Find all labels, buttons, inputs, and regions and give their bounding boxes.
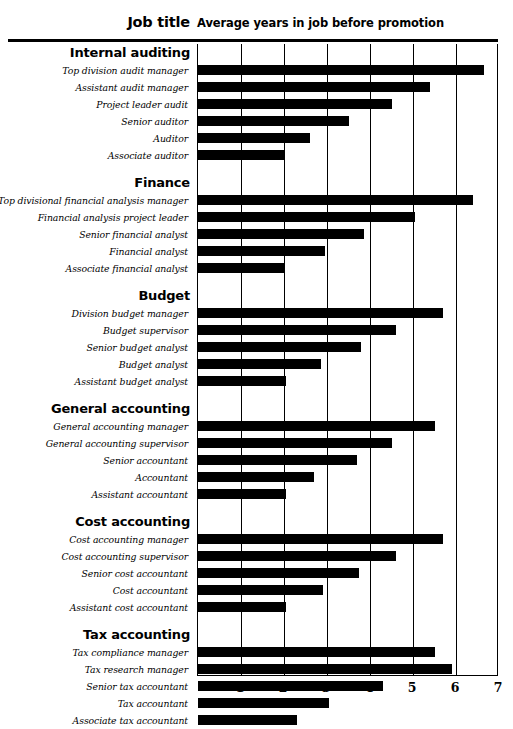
bar-row: General accounting manager xyxy=(0,418,513,435)
group-title-row: Cost accounting xyxy=(0,513,513,531)
bar-track xyxy=(198,192,498,209)
bar-row-label: Cost accounting supervisor xyxy=(62,551,188,562)
bar xyxy=(198,551,396,561)
bar-row-label: Senior tax accountant xyxy=(86,681,188,692)
bar xyxy=(198,116,349,126)
bar-row: Tax research manager xyxy=(0,661,513,678)
bar-row-label: Assistant cost accountant xyxy=(70,602,188,613)
bar xyxy=(198,376,286,386)
bar-row-label: General accounting supervisor xyxy=(46,438,188,449)
bar xyxy=(198,421,435,431)
bar-track xyxy=(198,62,498,79)
bar xyxy=(198,212,415,222)
bar-row-label: Cost accountant xyxy=(113,585,188,596)
chart-rows: Internal auditingTop division audit mana… xyxy=(0,44,513,729)
group-spacer xyxy=(0,390,513,400)
bar-row-label: Division budget manager xyxy=(72,308,188,319)
bar-row-label: Senior accountant xyxy=(103,455,188,466)
bar-row-label: Accountant xyxy=(135,472,188,483)
bar-row-label: Budget analyst xyxy=(119,359,188,370)
bar-track xyxy=(198,452,498,469)
bar-track xyxy=(198,96,498,113)
bar-row-label: Tax accountant xyxy=(118,698,188,709)
bar xyxy=(198,472,314,482)
axis-title-header: Average years in job before promotion xyxy=(197,16,497,30)
group-title-row: General accounting xyxy=(0,400,513,418)
chart-group: BudgetDivision budget managerBudget supe… xyxy=(0,287,513,400)
bar-row-label: Budget supervisor xyxy=(103,325,188,336)
bar xyxy=(198,664,452,674)
bar-track xyxy=(198,435,498,452)
bar xyxy=(198,715,297,725)
bar-row: Cost accountant xyxy=(0,582,513,599)
job-title-header: Job title xyxy=(0,14,190,30)
group-title: Internal auditing xyxy=(70,45,190,60)
bar-row-label: Senior cost accountant xyxy=(82,568,188,579)
bar-row: Project leader audit xyxy=(0,96,513,113)
bar-row: Associate financial analyst xyxy=(0,260,513,277)
header-divider xyxy=(8,39,498,42)
bar xyxy=(198,99,392,109)
chart-group: Internal auditingTop division audit mana… xyxy=(0,44,513,174)
bar xyxy=(198,150,284,160)
bar-row: Assistant budget analyst xyxy=(0,373,513,390)
group-spacer xyxy=(0,277,513,287)
bar-row: General accounting supervisor xyxy=(0,435,513,452)
group-spacer xyxy=(0,616,513,626)
x-tick-label: 3 xyxy=(314,680,338,695)
chart-group: Cost accountingCost accounting managerCo… xyxy=(0,513,513,626)
bar-row: Division budget manager xyxy=(0,305,513,322)
bar-row-label: Top divisional financial analysis manage… xyxy=(0,195,188,206)
x-axis: 1234567 xyxy=(197,678,498,700)
group-title-row: Finance xyxy=(0,174,513,192)
bar-track xyxy=(198,209,498,226)
bar-row: Cost accounting manager xyxy=(0,531,513,548)
bar xyxy=(198,263,284,273)
bar-row-label: Assistant audit manager xyxy=(75,82,188,93)
bar-row: Senior financial analyst xyxy=(0,226,513,243)
bar-track xyxy=(198,226,498,243)
group-title-row: Tax accounting xyxy=(0,626,513,644)
group-title: Budget xyxy=(138,288,190,303)
bar-track xyxy=(198,599,498,616)
bar-row: Top divisional financial analysis manage… xyxy=(0,192,513,209)
bar-row-label: General accounting manager xyxy=(53,421,188,432)
group-title-row: Budget xyxy=(0,287,513,305)
bar-row: Cost accounting supervisor xyxy=(0,548,513,565)
bar-row: Senior auditor xyxy=(0,113,513,130)
bar xyxy=(198,602,286,612)
bar-row: Assistant accountant xyxy=(0,486,513,503)
bar-track xyxy=(198,373,498,390)
bar xyxy=(198,308,443,318)
bar xyxy=(198,342,361,352)
bar-row-label: Project leader audit xyxy=(96,99,188,110)
bar-row: Tax compliance manager xyxy=(0,644,513,661)
bar-track xyxy=(198,712,498,729)
group-title: Tax accounting xyxy=(83,627,190,642)
bar-row-label: Financial analyst xyxy=(109,246,188,257)
bar-track xyxy=(198,113,498,130)
bar-track xyxy=(198,469,498,486)
bar-row: Financial analysis project leader xyxy=(0,209,513,226)
group-title: General accounting xyxy=(51,401,190,416)
bar-row: Senior accountant xyxy=(0,452,513,469)
bar-track xyxy=(198,418,498,435)
x-tick-label: 5 xyxy=(400,680,424,695)
bar-row-label: Auditor xyxy=(153,133,188,144)
bar xyxy=(198,489,286,499)
x-tick-label: 7 xyxy=(486,680,510,695)
bar-track xyxy=(198,582,498,599)
bar-track xyxy=(198,260,498,277)
bar-row: Associate tax accountant xyxy=(0,712,513,729)
chart-header: Job title Average years in job before pr… xyxy=(0,14,513,36)
bar-track xyxy=(198,644,498,661)
chart-group: General accountingGeneral accounting man… xyxy=(0,400,513,513)
bar-row: Budget supervisor xyxy=(0,322,513,339)
bar-row: Budget analyst xyxy=(0,356,513,373)
bar-row: Accountant xyxy=(0,469,513,486)
bar-track xyxy=(198,531,498,548)
group-title: Finance xyxy=(134,175,190,190)
bar-row: Senior budget analyst xyxy=(0,339,513,356)
bar-row: Auditor xyxy=(0,130,513,147)
